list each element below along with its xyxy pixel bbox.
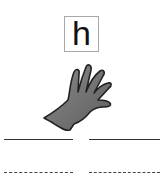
hand-icon bbox=[40, 62, 124, 136]
letter: h bbox=[72, 16, 91, 50]
writing-line-solid-left bbox=[4, 139, 73, 140]
writing-line-dashed-left bbox=[4, 172, 73, 173]
writing-line-solid-right bbox=[89, 139, 160, 140]
letter-box: h bbox=[64, 16, 99, 52]
writing-line-dashed-right bbox=[89, 172, 160, 173]
